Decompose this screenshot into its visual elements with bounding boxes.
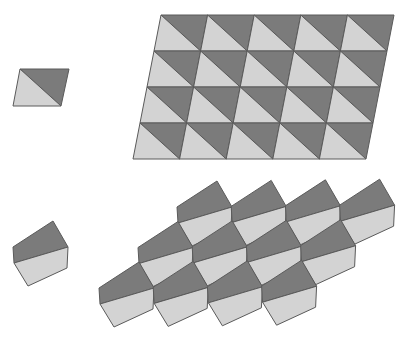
single-parallelogram-tile (13, 69, 69, 106)
pentagon-tessellation (99, 179, 395, 327)
parallelogram-tessellation (133, 15, 394, 159)
single-pentagon-tile (13, 221, 68, 286)
tessellation-diagram (0, 0, 407, 350)
pentagon-tile (13, 221, 68, 286)
